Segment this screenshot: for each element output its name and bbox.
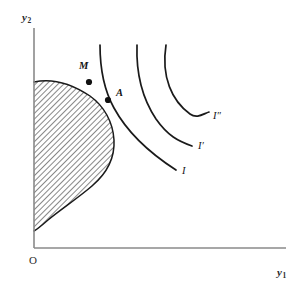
indifference-curves [100,45,212,170]
point-A-label: A [116,88,123,99]
idc-spare-4 [165,45,209,120]
origin-label: O [29,255,37,266]
idc-spare-3 [166,45,208,119]
curve-label-I: I [182,166,186,177]
idc-spare-2 [165,45,208,117]
economics-diagram: y2 y1 O M A I I′ I″ [0,0,304,296]
point-M-marker [86,79,92,85]
curve-label-I-prime: I′ [198,141,204,152]
x-axis-label-subscript: 1 [282,271,286,280]
curve-label-I-double-prime: I″ [213,111,221,122]
y-axis-label-subscript: 2 [27,16,31,25]
diagram-canvas [0,0,304,296]
indifference-curve-I-double-prime-guide [165,45,207,145]
x-axis-label: y1 [277,267,286,278]
indifference-curve-I-prime-guide [137,45,212,146]
idc-spare [165,45,207,118]
point-M-label: M [79,61,88,72]
y-axis-label: y2 [22,12,31,23]
point-A-marker [105,97,111,103]
indifference-curve-I-double-prime [165,45,209,116]
